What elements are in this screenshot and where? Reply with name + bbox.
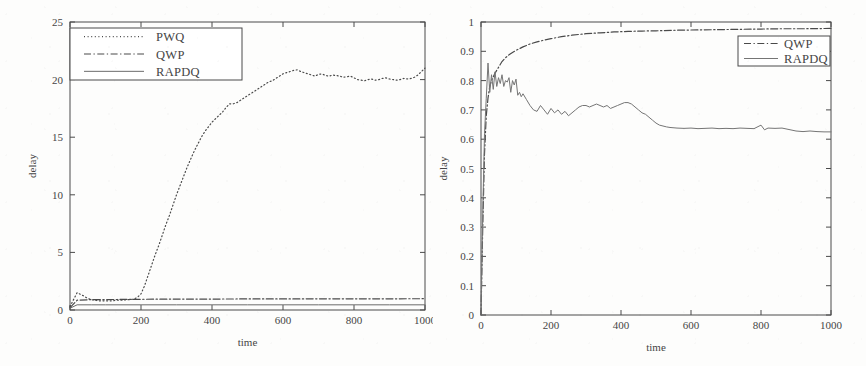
y-tick-label: 0.2	[460, 250, 474, 262]
series-line-pwq	[70, 68, 425, 306]
x-tick-label: 400	[204, 314, 221, 326]
y-tick-label: 25	[52, 16, 64, 28]
y-tick-label: 0.8	[460, 75, 474, 87]
y-tick-label: 10	[52, 189, 64, 201]
x-axis-title: time	[646, 341, 666, 353]
y-tick-label: 0	[58, 304, 64, 316]
y-tick-label: 20	[52, 74, 64, 86]
x-tick-label: 800	[346, 314, 363, 326]
chart-right-svg: 0200400600800100000.10.20.30.40.50.60.70…	[433, 0, 866, 366]
x-tick-label: 600	[683, 319, 700, 331]
x-tick-label: 1000	[414, 314, 433, 326]
chart-panel-right: 0200400600800100000.10.20.30.40.50.60.70…	[433, 0, 866, 366]
legend-label-pwq: PWQ	[156, 30, 185, 44]
x-tick-label: 800	[753, 319, 770, 331]
series-line-qwp	[70, 299, 425, 308]
y-tick-label: 0	[469, 309, 475, 321]
series-line-rapdq	[70, 305, 425, 308]
legend: QWPRAPDQ	[738, 36, 830, 66]
series-line-qwp	[481, 28, 831, 315]
chart-panel-left: 020040060080010000510152025timedelayPWQQ…	[0, 0, 433, 366]
y-axis-title: delay	[437, 156, 449, 180]
legend-label-rapdq: RAPDQ	[784, 52, 828, 66]
x-tick-label: 1000	[820, 319, 843, 331]
x-tick-label: 0	[67, 314, 73, 326]
y-tick-label: 5	[58, 246, 64, 258]
x-axis-title: time	[238, 336, 258, 348]
figure-container: 020040060080010000510152025timedelayPWQQ…	[0, 0, 866, 366]
legend: PWQQWPRAPDQ	[70, 28, 242, 80]
x-tick-label: 0	[478, 319, 484, 331]
legend-label-rapdq: RAPDQ	[156, 65, 200, 79]
series-line-rapdq	[481, 63, 831, 315]
y-tick-label: 1	[469, 16, 475, 28]
y-tick-label: 0.5	[460, 163, 474, 175]
legend-label-qwp: QWP	[156, 48, 185, 62]
y-axis-title: delay	[26, 154, 38, 178]
x-tick-label: 400	[613, 319, 630, 331]
legend-label-qwp: QWP	[784, 37, 813, 51]
x-tick-label: 200	[543, 319, 560, 331]
y-tick-label: 0.1	[460, 280, 474, 292]
y-tick-label: 0.7	[460, 104, 474, 116]
chart-left-svg: 020040060080010000510152025timedelayPWQQ…	[0, 0, 433, 366]
y-tick-label: 15	[52, 131, 64, 143]
y-tick-label: 0.9	[460, 45, 474, 57]
y-tick-label: 0.4	[460, 192, 474, 204]
x-tick-label: 600	[275, 314, 292, 326]
y-tick-label: 0.6	[460, 133, 474, 145]
y-tick-label: 0.3	[460, 221, 474, 233]
x-tick-label: 200	[133, 314, 150, 326]
